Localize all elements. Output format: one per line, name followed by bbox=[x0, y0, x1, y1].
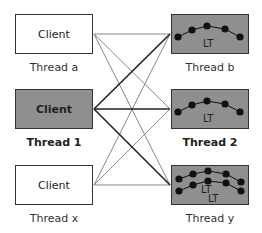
node-icon bbox=[189, 170, 196, 177]
node-icon bbox=[236, 108, 243, 115]
node-icon bbox=[174, 108, 181, 115]
node-icon bbox=[221, 100, 228, 107]
lt-label-thread-y-lower: LT bbox=[208, 193, 218, 204]
node-icon bbox=[188, 101, 195, 108]
node-icon bbox=[203, 97, 210, 104]
node-icon bbox=[204, 167, 211, 174]
node-icon bbox=[189, 181, 196, 188]
lt-node-chains bbox=[0, 0, 262, 233]
node-icon bbox=[222, 179, 229, 186]
lt-label-thread-b: LT bbox=[203, 38, 213, 49]
node-icon bbox=[188, 26, 195, 33]
node-icon bbox=[236, 33, 243, 40]
node-icon bbox=[221, 25, 228, 32]
node-icon bbox=[237, 178, 244, 185]
node-icon bbox=[203, 22, 210, 29]
node-icon bbox=[175, 187, 182, 194]
node-icon bbox=[175, 175, 182, 182]
lt-label-thread-2: LT bbox=[203, 113, 213, 124]
node-icon bbox=[174, 33, 181, 40]
node-icon bbox=[222, 170, 229, 177]
node-icon bbox=[237, 187, 244, 194]
